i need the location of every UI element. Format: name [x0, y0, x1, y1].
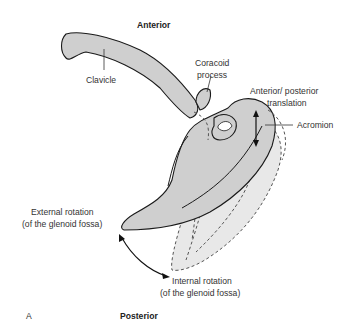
- coracoid-label-line2: process: [197, 70, 227, 80]
- clavicle-bone: [62, 33, 198, 118]
- translation-label-line1: Anterior/ posterior: [250, 86, 318, 96]
- acromion-label: Acromion: [297, 120, 334, 130]
- scapula-motion-diagram: Anterior Clavicle Coracoid process Anter…: [0, 0, 353, 323]
- external-rotation-label-line1: External rotation: [31, 207, 94, 217]
- internal-rotation-label-line2: (of the glenoid fossa): [160, 288, 240, 298]
- panel-letter: A: [26, 311, 32, 321]
- translation-label-line2: translation: [267, 98, 307, 108]
- coracoid-process: [196, 89, 211, 110]
- anterior-label: Anterior: [137, 20, 171, 30]
- clavicle-label: Clavicle: [86, 75, 116, 85]
- coracoid-label-line1: Coracoid: [195, 58, 230, 68]
- rotation-arc-arrow: [119, 234, 170, 279]
- external-rotation-label-line2: (of the glenoid fossa): [22, 219, 102, 229]
- internal-rotation-label-line1: Internal rotation: [172, 276, 232, 286]
- posterior-label: Posterior: [120, 311, 158, 321]
